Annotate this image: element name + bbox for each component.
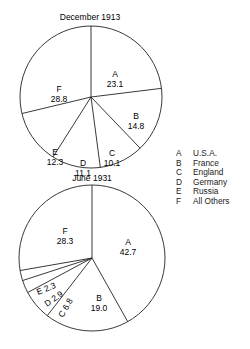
pie2-label-f-value: 28.3 (57, 236, 74, 246)
pie2-label-b-key: B (96, 293, 102, 303)
pie1-label-b-value: 14.8 (128, 121, 145, 131)
pie1-title: December 1913 (60, 12, 121, 22)
legend-item-f: FAll Others (176, 197, 229, 207)
pie-december-1913 (20, 26, 162, 168)
pie2-title: June 1931 (72, 173, 112, 183)
pie1-label-a-value: 23.1 (107, 79, 124, 89)
pie2-label-a-key: A (125, 237, 131, 247)
pie1-label-c-value: 10.1 (104, 158, 121, 168)
pie2-label-a-value: 42.7 (120, 247, 137, 257)
pie1-label-e-key: E (52, 147, 58, 157)
pie1-label-f-key: F (56, 84, 61, 94)
pie2-label-f-key: F (62, 226, 67, 236)
pie1-label-c-key: C (109, 148, 115, 158)
pie2-label-b-value: 19.0 (91, 303, 108, 313)
pie1-label-d-key: D (80, 158, 86, 168)
pie1-label-e-value: 12.3 (47, 157, 64, 167)
pie1-label-a-key: A (112, 69, 118, 79)
pie1-label-f-value: 28.8 (51, 94, 68, 104)
legend: AU.S.A. BFrance CEngland DGermany ERussi… (176, 149, 229, 207)
pie1-label-b-key: B (133, 111, 139, 121)
